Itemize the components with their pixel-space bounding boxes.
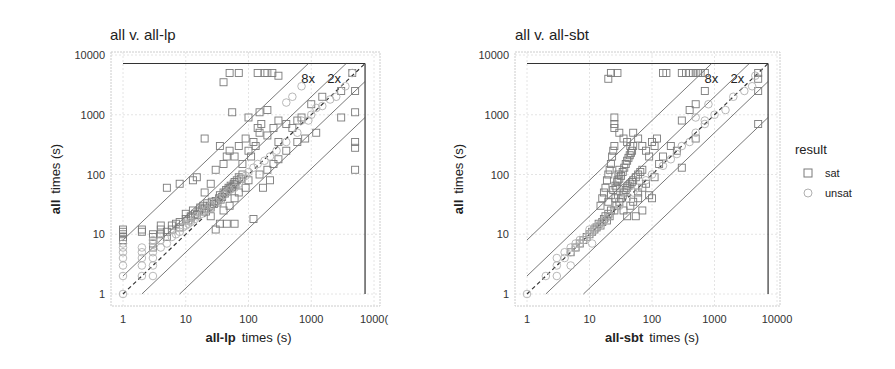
legend-item-sat: sat: [795, 163, 852, 183]
legend-title: result: [795, 142, 852, 157]
y-tick-label: 1: [503, 288, 509, 300]
circle-marker-icon: [801, 186, 815, 200]
x-tick-label: 1: [524, 313, 530, 325]
annotation-8x: 8x: [705, 71, 719, 86]
legend-item-unsat: unsat: [795, 183, 852, 203]
y-axis-title: alltimes (s): [451, 144, 466, 214]
y-tick-label: 10000: [478, 49, 509, 61]
y-tick-label: 100: [491, 169, 509, 181]
legend-label: sat: [825, 167, 840, 179]
annotation-2x: 2x: [731, 71, 745, 86]
y-tick-label: 10: [497, 228, 509, 240]
square-marker-icon: [801, 166, 815, 180]
x-tick-label: 10: [583, 313, 595, 325]
y-tick-label: 1000: [485, 109, 509, 121]
scatter-plot-all-sbt: 110100100010000110100100010000all-sbttim…: [0, 0, 895, 369]
x-tick-label: 100: [643, 313, 661, 325]
legend-label: unsat: [825, 187, 852, 199]
scatter-panel-all-vs-all-sbt: all v. all-sbt 1101001000100001101001000…: [0, 0, 895, 369]
x-tick-label: 1000: [702, 313, 726, 325]
legend: result sat unsat: [795, 142, 852, 203]
x-tick-label: 10000: [762, 313, 793, 325]
x-axis-title: all-sbttimes (s): [605, 330, 699, 345]
